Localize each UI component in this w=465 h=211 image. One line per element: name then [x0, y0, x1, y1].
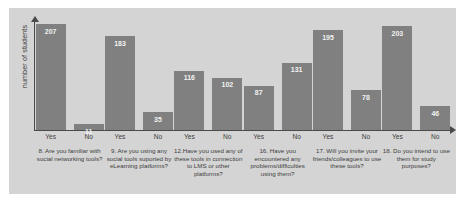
bar: 131 [282, 63, 312, 130]
question-label: 8. Are you familiar with social networki… [35, 147, 104, 162]
bar: 46 [420, 106, 450, 130]
bar-value-label: 87 [244, 88, 274, 97]
category-label-no: No [282, 133, 312, 140]
question-captions: 8. Are you familiar with social networki… [35, 147, 451, 191]
question-label: 12.Have you used any of these tools in c… [174, 147, 243, 177]
category-label-yes: Yes [313, 133, 343, 140]
question-label: 16. Have you encountered any problems/di… [243, 147, 312, 177]
bar-value-label: 35 [143, 115, 173, 124]
bar: 102 [212, 78, 242, 130]
category-label-yes: Yes [105, 133, 135, 140]
category-label-yes: Yes [36, 133, 66, 140]
bar-value-label: 195 [313, 33, 343, 42]
bar-value-label: 102 [212, 80, 242, 89]
category-tick-labels: YesNoYesNoYesNoYesNoYesNoYesNo [35, 133, 451, 145]
plot-area: 2071118335116102871311957820346 [35, 20, 451, 130]
question-label: 9. Are you using any social tools suport… [104, 147, 173, 170]
category-label-no: No [212, 133, 242, 140]
bar: 203 [382, 26, 412, 130]
bar: 78 [351, 90, 381, 130]
category-label-no: No [74, 133, 104, 140]
bar-chart: number of students 207111833511610287131… [9, 8, 456, 194]
bar: 207 [36, 24, 66, 130]
category-label-yes: Yes [382, 133, 412, 140]
category-label-no: No [420, 133, 450, 140]
bar-value-label: 78 [351, 93, 381, 102]
bar-value-label: 203 [382, 29, 412, 38]
bar: 87 [244, 86, 274, 131]
question-label: 17. Will you invite your friends/colleag… [312, 147, 381, 170]
bar-value-label: 46 [420, 109, 450, 118]
y-axis-label: number of students [20, 9, 29, 105]
category-label-no: No [351, 133, 381, 140]
category-label-yes: Yes [244, 133, 274, 140]
category-label-yes: Yes [174, 133, 204, 140]
question-label: 18. Do you intend to use them for study … [382, 147, 451, 170]
bar-value-label: 131 [282, 65, 312, 74]
bar: 183 [105, 36, 135, 130]
bar: 116 [174, 71, 204, 130]
bar: 195 [313, 30, 343, 130]
bar: 35 [143, 112, 173, 130]
bar-value-label: 207 [36, 27, 66, 36]
bar: 11 [74, 124, 104, 130]
category-label-no: No [143, 133, 173, 140]
bar-value-label: 183 [105, 39, 135, 48]
bar-value-label: 116 [174, 73, 204, 82]
